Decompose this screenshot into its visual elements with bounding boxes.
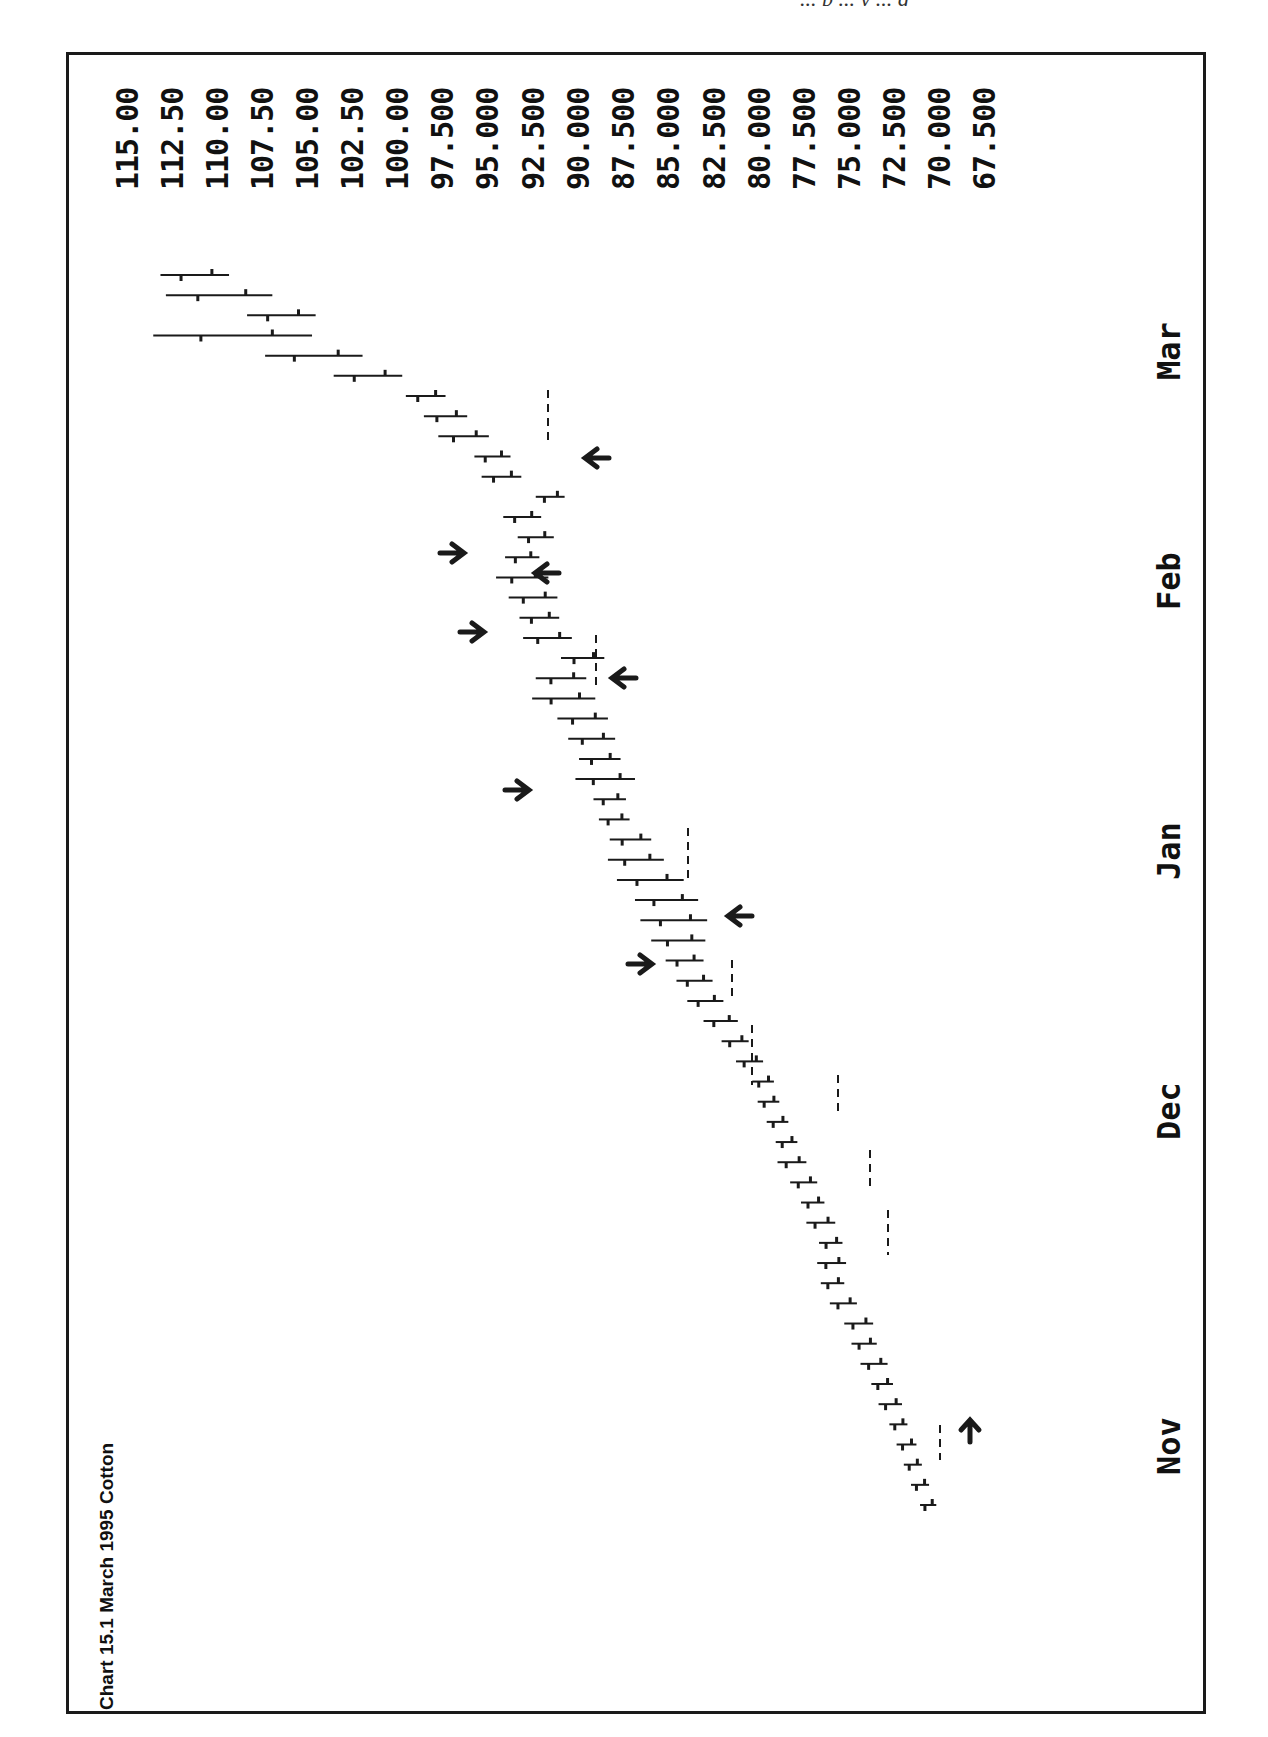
signal-arrow-icon bbox=[728, 907, 752, 925]
signal-arrow-icon bbox=[460, 623, 484, 641]
price-bars-plot bbox=[0, 0, 1268, 1737]
signal-arrow-icon bbox=[628, 955, 652, 973]
signal-arrow-icon bbox=[505, 781, 529, 799]
signal-arrow-icon bbox=[440, 544, 464, 562]
signal-arrow-icon bbox=[961, 1420, 979, 1442]
signal-arrow-icon bbox=[585, 449, 609, 467]
signal-arrow-icon bbox=[612, 669, 636, 687]
signal-arrow-icon bbox=[535, 564, 559, 582]
